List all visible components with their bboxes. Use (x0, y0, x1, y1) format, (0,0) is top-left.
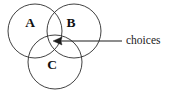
set-circle-a (8, 4, 62, 58)
venn-diagram-canvas: A B C choices (0, 0, 171, 96)
callout-arrowhead-icon (53, 37, 62, 45)
callout-label-choices: choices (126, 34, 161, 46)
set-circle-b (47, 4, 101, 58)
set-label-c: C (47, 57, 57, 72)
venn-diagram-figure: A B C choices (0, 0, 171, 96)
set-label-b: B (66, 15, 75, 30)
set-label-a: A (25, 15, 35, 30)
